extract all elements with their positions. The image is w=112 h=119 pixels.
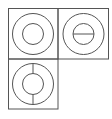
cell-bottom-left [9, 59, 59, 109]
inner-circle-icon [23, 24, 44, 45]
cell-border [9, 9, 59, 60]
outer-circle-icon [13, 14, 54, 55]
cell-top-right [58, 9, 109, 60]
inner-circle-icon [23, 74, 44, 95]
cell-top-left [9, 9, 59, 60]
puzzle-grid [0, 0, 112, 119]
